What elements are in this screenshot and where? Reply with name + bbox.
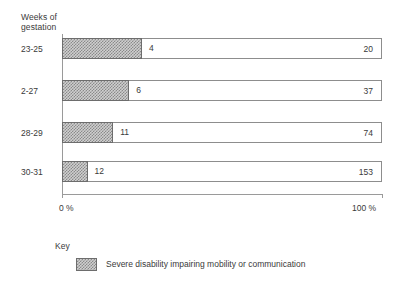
category-label: 2-27 xyxy=(21,86,61,97)
y-axis-title: Weeks of gestation xyxy=(21,12,81,32)
x-axis-tick-max xyxy=(382,194,383,198)
bar-total-value: 153 xyxy=(359,167,373,178)
x-axis-min-label: 0 % xyxy=(59,203,74,214)
bar-total-value: 37 xyxy=(364,86,373,97)
bar-segment-severe-disability xyxy=(62,161,88,182)
x-axis-line xyxy=(62,194,383,195)
bar-chart: Weeks of gestation 23-25 2-27 28-29 30-3… xyxy=(0,0,401,301)
plot-area: 20 4 37 6 74 11 153 12 xyxy=(62,34,383,194)
category-label: 28-29 xyxy=(21,128,61,139)
x-axis-max-label: 100 % xyxy=(352,203,376,214)
bar-total-value: 20 xyxy=(364,44,373,55)
x-axis-tick-min xyxy=(62,194,63,198)
bar-total-value: 74 xyxy=(364,128,373,139)
legend-item-label: Severe disability impairing mobility or … xyxy=(106,259,305,270)
category-label: 23-25 xyxy=(21,44,61,55)
bar-segment-value: 4 xyxy=(149,43,154,54)
bar-segment-value: 11 xyxy=(120,127,129,138)
legend-swatch-icon xyxy=(76,258,97,271)
bar-segment-severe-disability xyxy=(62,80,129,101)
bar-segment-severe-disability xyxy=(62,38,142,59)
legend-title: Key xyxy=(55,241,70,252)
category-label: 30-31 xyxy=(21,167,61,178)
bar-segment-severe-disability xyxy=(62,122,113,143)
y-axis-title-line-2: gestation xyxy=(21,22,81,32)
bar-total: 153 xyxy=(62,161,382,182)
bar-segment-value: 12 xyxy=(95,166,104,177)
y-axis-title-line-1: Weeks of xyxy=(21,12,81,22)
legend-item: Severe disability impairing mobility or … xyxy=(76,258,305,271)
bar-segment-value: 6 xyxy=(136,85,141,96)
